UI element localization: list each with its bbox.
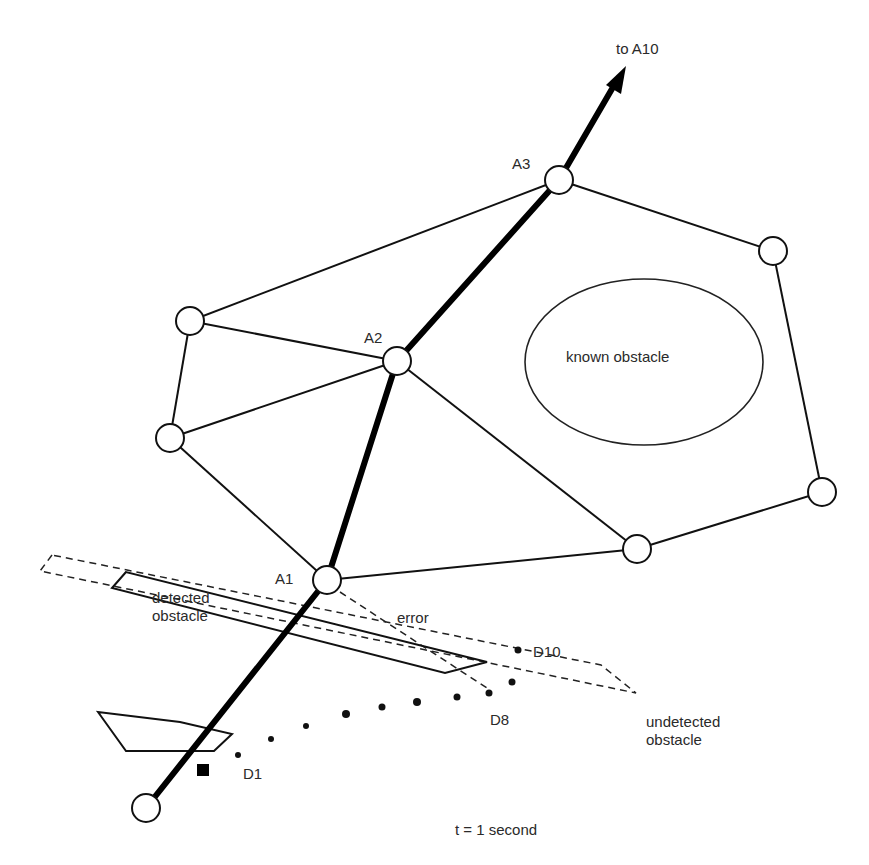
point-d1 [235, 752, 241, 758]
point-d3 [303, 723, 309, 729]
point-d2 [268, 736, 274, 742]
label-a3: A3 [512, 155, 530, 172]
planned-path [146, 82, 616, 808]
label-time: t = 1 second [455, 821, 537, 838]
navigation-diagram [0, 0, 869, 865]
obstacle-polygon [98, 712, 232, 751]
node-a1 [313, 566, 341, 594]
node-a2 [383, 347, 411, 375]
point-d8 [486, 690, 493, 697]
point-d4 [342, 710, 350, 718]
label-d1: D1 [243, 765, 262, 782]
point-d10 [515, 647, 522, 654]
node-a3 [545, 166, 573, 194]
point-d9 [509, 679, 516, 686]
robot-position-marker [197, 764, 209, 776]
point-d7 [454, 694, 461, 701]
node-left-mid [156, 424, 184, 452]
label-d10: D10 [533, 643, 561, 660]
label-to-a10: to A10 [616, 40, 659, 57]
point-d5 [379, 704, 386, 711]
label-detected-obstacle: detected obstacle [152, 589, 210, 625]
label-a2: A2 [364, 329, 382, 346]
label-d8: D8 [490, 711, 509, 728]
node-right-low [808, 478, 836, 506]
error-line [340, 592, 490, 690]
node-bottom-right [623, 535, 651, 563]
label-error: error [397, 609, 429, 626]
node-start [132, 794, 160, 822]
label-known-obstacle: known obstacle [566, 348, 669, 365]
label-a1: A1 [275, 570, 293, 587]
graph-edges [170, 180, 822, 580]
point-d6 [413, 698, 421, 706]
node-right-top [759, 237, 787, 265]
node-left-top [176, 307, 204, 335]
label-undetected-obstacle: undetected obstacle [646, 713, 720, 749]
